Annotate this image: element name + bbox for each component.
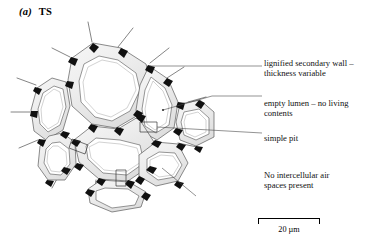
sclerenchyma-diagram: .wall { fill: url(#wallgrad); stroke: #5… <box>0 0 387 252</box>
scale-bar-label: 20 µm <box>258 224 320 234</box>
figure-panel: (a)TS .wall { fill: url(#wallgrad); stro… <box>0 0 387 252</box>
annotation-no-air-spaces: No intercellular air spaces present <box>264 170 384 191</box>
cell <box>88 180 146 212</box>
annotation-lignified-wall: lignified secondary wall – thickness var… <box>264 58 384 79</box>
cell <box>31 78 70 140</box>
cell-cluster <box>11 22 214 212</box>
annotation-empty-lumen: empty lumen – no living contents <box>264 98 384 119</box>
scale-bar-line <box>258 218 320 224</box>
annotation-simple-pit: simple pit <box>264 133 384 143</box>
scale-bar: 20 µm <box>258 218 320 234</box>
